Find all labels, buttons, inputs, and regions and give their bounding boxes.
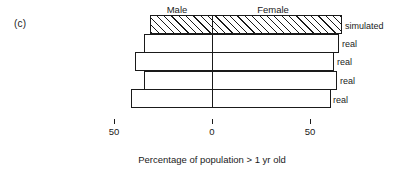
group-label-male: Male — [167, 4, 188, 15]
bar-row-4 — [144, 71, 337, 90]
bar-label-row-1: simulated — [345, 22, 384, 31]
tick-mark-zero — [212, 119, 213, 124]
panel-label: (c) — [14, 18, 26, 29]
bar-row-1 — [150, 15, 342, 34]
tick-mark-left-50 — [114, 119, 115, 124]
bar-label-row-3: real — [337, 58, 352, 67]
bar-label-row-2: real — [342, 40, 357, 49]
tick-label-zero: 0 — [209, 127, 214, 137]
tick-mark-right-50 — [310, 119, 311, 124]
bar-row-3 — [135, 52, 334, 71]
tick-label-right-50: 50 — [305, 127, 316, 137]
bar-label-row-4: real — [340, 77, 355, 86]
bar-row-2 — [144, 34, 339, 53]
bar-row-5 — [131, 89, 331, 108]
population-pyramid-chart: (c) Male Female simulated real real real… — [0, 0, 417, 175]
tick-label-left-50: 50 — [109, 127, 120, 137]
group-label-female: Female — [257, 4, 289, 15]
bar-label-row-5: real — [333, 96, 348, 105]
x-axis-title: Percentage of population > 1 yr old — [138, 155, 286, 165]
zero-axis-line — [212, 15, 213, 108]
